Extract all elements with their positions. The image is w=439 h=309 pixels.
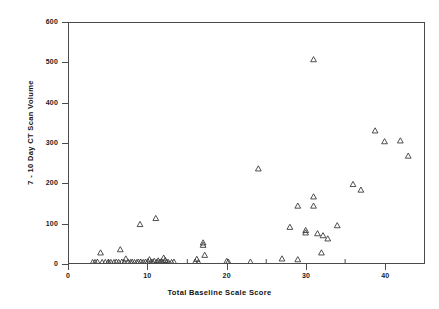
data-point-marker <box>320 233 326 238</box>
scatter-plot-figure: 0100200300400500600 010203040 7 - 10 Day… <box>0 0 439 309</box>
data-point-marker <box>98 250 104 255</box>
data-point-marker <box>311 194 317 199</box>
data-point-marker <box>279 256 285 261</box>
data-point-marker <box>382 139 388 144</box>
x-axis-tick-label: 0 <box>53 272 83 279</box>
data-point-marker <box>255 166 261 171</box>
data-point-marker <box>405 153 411 158</box>
data-point-marker <box>153 215 159 220</box>
y-axis-label: 7 - 10 Day CT Scan Volume <box>26 13 35 253</box>
x-axis-tick <box>306 264 307 270</box>
x-axis-tick-label: 40 <box>370 272 400 279</box>
data-point-marker <box>372 128 378 133</box>
x-axis-tick <box>385 264 386 270</box>
data-point-marker <box>315 231 321 236</box>
data-point-marker <box>295 257 301 262</box>
y-axis-tick <box>62 224 68 225</box>
data-point-marker <box>117 247 123 252</box>
x-axis-tick <box>227 264 228 270</box>
x-axis-tick <box>68 264 69 270</box>
x-axis-tick-label: 20 <box>212 272 242 279</box>
x-axis-label: Total Baseline Scale Score <box>0 288 439 297</box>
x-axis-tick-label: 10 <box>132 272 162 279</box>
y-axis-tick <box>62 103 68 104</box>
data-point-marker <box>397 138 403 143</box>
y-axis-tick <box>62 183 68 184</box>
data-point-marker <box>350 181 356 186</box>
y-axis-tick <box>62 22 68 23</box>
x-axis-tick <box>147 264 148 270</box>
data-points-layer <box>69 23 424 263</box>
data-point-marker <box>311 57 317 62</box>
data-point-marker <box>311 203 317 208</box>
data-point-marker <box>287 224 293 229</box>
data-point-marker <box>358 187 364 192</box>
data-point-marker <box>334 223 340 228</box>
y-axis-tick <box>62 62 68 63</box>
x-axis-tick-label: 30 <box>291 272 321 279</box>
data-point-marker <box>248 259 254 263</box>
data-point-marker <box>202 252 208 257</box>
data-point-marker <box>137 221 143 226</box>
y-axis-label-wrapper: 7 - 10 Day CT Scan Volume <box>10 0 30 280</box>
plot-area <box>68 22 425 264</box>
data-point-marker <box>295 203 301 208</box>
data-point-marker <box>319 250 325 255</box>
y-axis-tick <box>62 143 68 144</box>
